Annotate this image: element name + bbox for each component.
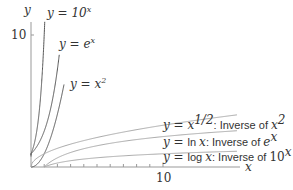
label-e-pow-x: y = ex	[58, 36, 96, 51]
label-10-pow-x: y = 10x	[46, 5, 92, 20]
y-tick-label-10: 10	[11, 28, 26, 42]
function-inverse-chart: y x 10 10 y = 10x y = ex y = x2 y = x1/2…	[0, 0, 293, 190]
y-axis-label: y	[23, 3, 31, 17]
curve-0	[31, 22, 45, 157]
label-ln-x: y = ln x: Inverse of ex	[162, 130, 277, 149]
x-tick-label-10: 10	[156, 171, 171, 185]
label-sqrt-x: y = x1/2: Inverse of x2	[162, 113, 285, 132]
label-x-squared: y = x2	[69, 76, 106, 91]
curve-2	[31, 85, 64, 168]
